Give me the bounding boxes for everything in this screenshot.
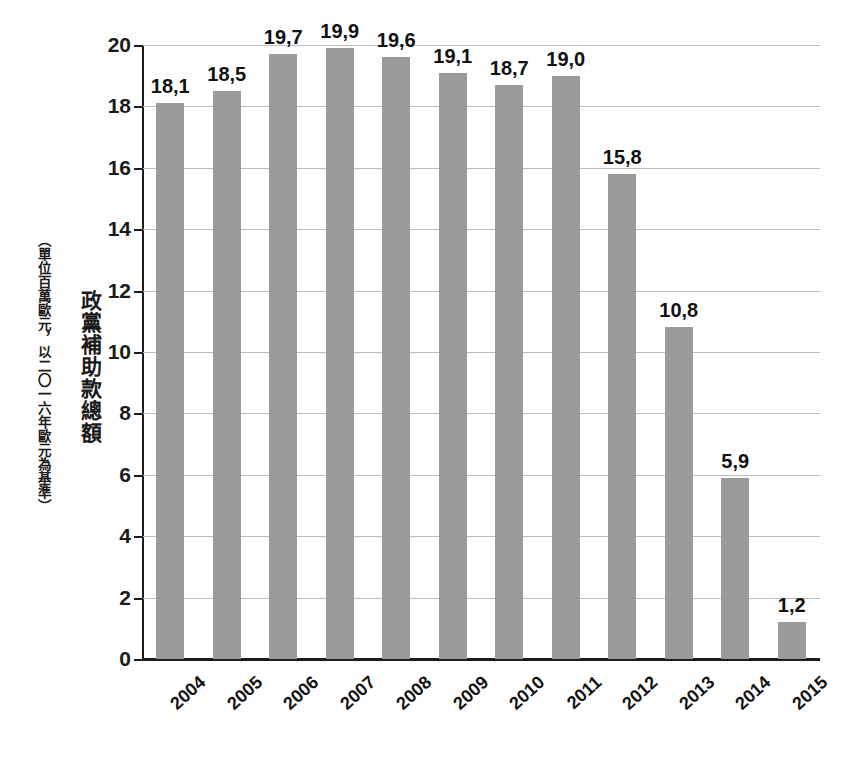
bar-value-label: 19,7 (264, 26, 303, 49)
bar[interactable] (495, 85, 523, 659)
bar-slot[interactable]: 18,1 (142, 45, 199, 659)
x-tick-label: 2007 (336, 672, 380, 714)
bar-value-label: 18,5 (207, 63, 246, 86)
bar[interactable] (269, 54, 297, 659)
plot-area: 02468101214161820 18,118,519,719,919,619… (142, 45, 820, 659)
bar[interactable] (721, 478, 749, 659)
bar-slot[interactable]: 19,1 (425, 45, 482, 659)
y-tick-label: 6 (119, 463, 131, 487)
bar[interactable] (156, 103, 184, 659)
y-tick-label: 8 (119, 401, 131, 425)
y-tick-label: 12 (108, 279, 131, 303)
bar-value-label: 10,8 (659, 299, 698, 322)
bar-value-label: 19,1 (433, 45, 472, 68)
y-tick-label: 10 (108, 340, 131, 364)
bars-layer: 18,118,519,719,919,619,118,719,015,810,8… (142, 45, 820, 659)
y-axis-unit-note: （單位百萬歐元，以二〇一六年歐元為基準） (36, 233, 50, 513)
y-tick-label: 2 (119, 586, 131, 610)
bar[interactable] (213, 91, 241, 659)
bar[interactable] (608, 174, 636, 659)
y-tick-label: 16 (108, 156, 131, 180)
y-tick-label: 18 (108, 94, 131, 118)
bar-value-label: 18,7 (490, 57, 529, 80)
y-tick-label: 14 (108, 217, 131, 241)
x-tick-label: 2010 (505, 672, 549, 714)
bar[interactable] (326, 48, 354, 659)
bar-value-label: 19,6 (377, 29, 416, 52)
x-tick-label: 2006 (279, 672, 323, 714)
bar-slot[interactable]: 19,6 (368, 45, 425, 659)
bar-slot[interactable]: 19,0 (538, 45, 595, 659)
bar-slot[interactable]: 1,2 (764, 45, 821, 659)
x-tick-label: 2013 (675, 672, 719, 714)
x-tick-label: 2009 (449, 672, 493, 714)
bar-slot[interactable]: 19,7 (255, 45, 312, 659)
bar-slot[interactable]: 19,9 (312, 45, 369, 659)
y-axis-title-group: 政黨補助款總額 （單位百萬歐元，以二〇一六年歐元為基準） (30, 225, 100, 605)
bar-value-label: 19,9 (320, 20, 359, 43)
x-tick-label: 2015 (788, 672, 832, 714)
bar-value-label: 1,2 (778, 594, 806, 617)
y-tick-label: 20 (108, 33, 131, 57)
y-tick-label: 0 (119, 647, 131, 671)
bar-value-label: 19,0 (546, 48, 585, 71)
bar-chart: 政黨補助款總額 （單位百萬歐元，以二〇一六年歐元為基準） 02468101214… (0, 0, 865, 768)
bar-value-label: 15,8 (603, 146, 642, 169)
bar-value-label: 5,9 (721, 450, 749, 473)
bar[interactable] (778, 622, 806, 659)
x-tick-label: 2004 (166, 672, 210, 714)
bar-slot[interactable]: 15,8 (594, 45, 651, 659)
bar-slot[interactable]: 5,9 (707, 45, 764, 659)
bar-value-label: 18,1 (151, 75, 190, 98)
bar[interactable] (665, 327, 693, 659)
y-tick-label: 4 (119, 524, 131, 548)
y-tick-mark (134, 659, 143, 661)
x-tick-label: 2012 (618, 672, 662, 714)
bar-slot[interactable]: 10,8 (651, 45, 708, 659)
x-tick-label: 2005 (223, 672, 267, 714)
x-tick-label: 2011 (563, 672, 606, 714)
y-axis-title: 政黨補助款總額 (79, 290, 100, 444)
bar-slot[interactable]: 18,7 (481, 45, 538, 659)
bar[interactable] (552, 76, 580, 659)
bar-slot[interactable]: 18,5 (199, 45, 256, 659)
x-tick-label: 2014 (731, 672, 775, 714)
bar[interactable] (382, 57, 410, 659)
x-tick-label: 2008 (392, 672, 436, 714)
bar[interactable] (439, 73, 467, 659)
